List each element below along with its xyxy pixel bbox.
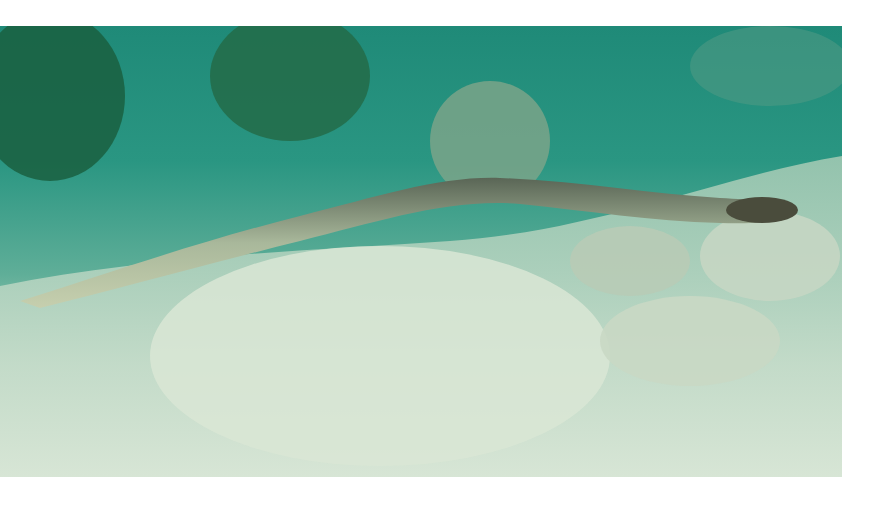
scene (0, 26, 842, 477)
coral-right (690, 26, 842, 106)
rock-2 (700, 211, 840, 301)
photo (0, 26, 842, 477)
coral-left (0, 26, 125, 181)
rock-3 (600, 296, 780, 386)
sand-mound (150, 246, 610, 466)
coral-top (210, 26, 370, 141)
rock-1 (570, 226, 690, 296)
snake-head (726, 197, 798, 223)
